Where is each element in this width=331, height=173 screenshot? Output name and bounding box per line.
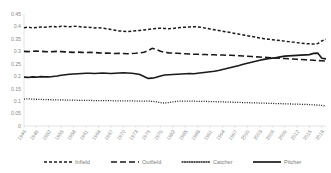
y-tick-label: 0.45 xyxy=(11,11,21,17)
x-tick-label: 1970 xyxy=(115,128,126,141)
legend-label-infield: Infield xyxy=(75,159,90,165)
x-tick-label: 2006 xyxy=(264,128,275,141)
x-tick-label: 1967 xyxy=(103,128,114,141)
x-tick-label: 1955 xyxy=(53,128,64,141)
chart-plot-area: 0.450.40.350.30.250.20.150.10.050 194619… xyxy=(0,0,331,173)
x-tick-label: 2009 xyxy=(277,128,288,141)
y-tick-label: 0.2 xyxy=(14,73,21,79)
chart-axes xyxy=(24,14,326,126)
y-tick-label: 0.4 xyxy=(14,23,21,29)
x-tick-label: 1964 xyxy=(90,128,101,141)
x-tick-label: 1961 xyxy=(78,128,89,141)
legend-label-outfield: Outfield xyxy=(142,159,161,165)
line-chart: 0.450.40.350.30.250.20.150.10.050 194619… xyxy=(0,0,331,173)
x-tick-label: 1952 xyxy=(41,128,52,141)
x-tick-label: 1946 xyxy=(16,128,27,141)
x-tick-label: 1976 xyxy=(140,128,151,141)
x-tick-label: 1982 xyxy=(165,128,176,141)
x-tick-label: 2018 xyxy=(314,128,325,141)
series-line-catcher xyxy=(24,99,326,106)
x-tick-label: 1973 xyxy=(128,128,139,141)
x-tick-label: 2012 xyxy=(289,128,300,141)
x-tick-label: 1958 xyxy=(66,128,77,141)
x-tick-label: 2000 xyxy=(239,128,250,141)
x-tick-label: 1949 xyxy=(28,128,39,141)
y-tick-label: 0.15 xyxy=(11,86,21,92)
x-tick-label: 1994 xyxy=(215,128,226,141)
chart-legend: InfieldOutfieldCatcherPitcher xyxy=(44,159,302,165)
x-tick-label: 1997 xyxy=(227,128,238,141)
x-tick-label: 2015 xyxy=(301,128,312,141)
x-tick-label: 1979 xyxy=(153,128,164,141)
y-tick-label: 0.3 xyxy=(14,48,21,54)
x-tick-label: 1991 xyxy=(202,128,213,141)
x-tick-label: 2003 xyxy=(252,128,263,141)
y-tick-label: 0.05 xyxy=(11,110,21,116)
series-line-pitcher xyxy=(24,53,326,78)
y-tick-label: 0.25 xyxy=(11,61,21,67)
y-tick-label: 0.1 xyxy=(14,98,21,104)
x-tick-label: 1985 xyxy=(177,128,188,141)
series-line-infield xyxy=(24,26,326,44)
x-axis-tick-labels: 1946194919521955195819611964196719701973… xyxy=(16,126,325,141)
y-tick-label: 0.35 xyxy=(11,36,21,42)
legend-label-pitcher: Pitcher xyxy=(284,159,302,165)
y-tick-label: 0 xyxy=(18,123,21,129)
x-tick-label: 1988 xyxy=(190,128,201,141)
chart-series-lines xyxy=(24,26,326,106)
legend-label-catcher: Catcher xyxy=(213,159,233,165)
series-line-outfield xyxy=(24,48,326,61)
y-axis-tick-labels: 0.450.40.350.30.250.20.150.10.050 xyxy=(11,11,21,129)
